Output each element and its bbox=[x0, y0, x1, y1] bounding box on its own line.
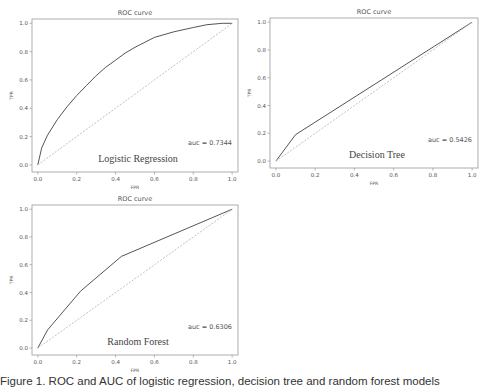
y-tick-label: 0.0 bbox=[257, 158, 266, 164]
y-tick-label: 0.4 bbox=[257, 103, 266, 109]
x-tick-label: 0.2 bbox=[72, 359, 81, 365]
x-tick-label: 0.8 bbox=[189, 359, 198, 365]
y-tick-label: 0.2 bbox=[19, 317, 28, 323]
model-label: Random Forest bbox=[107, 336, 169, 347]
plot-frame bbox=[270, 18, 478, 168]
y-axis-label: TPR bbox=[9, 276, 14, 286]
x-tick-label: 0.4 bbox=[350, 172, 359, 178]
x-axis-label: FPR bbox=[131, 368, 139, 373]
y-tick-label: 0.6 bbox=[257, 75, 266, 81]
x-tick-label: 1.0 bbox=[228, 359, 237, 365]
y-tick-label: 0.8 bbox=[257, 47, 266, 53]
model-label: Decision Tree bbox=[349, 149, 405, 160]
x-tick-label: 0.2 bbox=[311, 172, 320, 178]
chart-panel-random-forest: ROC curve0.00.20.40.60.81.00.00.20.40.60… bbox=[0, 0, 250, 387]
y-tick-label: 1.0 bbox=[19, 206, 28, 212]
chart-title: ROC curve bbox=[118, 195, 152, 203]
x-tick-label: 0.6 bbox=[150, 359, 159, 365]
y-tick-label: 0.2 bbox=[257, 130, 266, 136]
figure-caption: Figure 1. ROC and AUC of logistic regres… bbox=[0, 375, 493, 387]
x-tick-label: 0.0 bbox=[272, 172, 281, 178]
y-tick-label: 0.4 bbox=[19, 290, 28, 296]
auc-annotation: auc = 0.5426 bbox=[428, 136, 472, 144]
y-tick-label: 1.0 bbox=[257, 19, 266, 25]
x-axis-label: FPR bbox=[370, 181, 378, 186]
roc-chart-random-forest: ROC curve0.00.20.40.60.81.00.00.20.40.60… bbox=[0, 0, 250, 387]
chart-title: ROC curve bbox=[357, 8, 391, 16]
x-tick-label: 1.0 bbox=[468, 172, 477, 178]
y-tick-label: 0.8 bbox=[19, 234, 28, 240]
x-tick-label: 0.6 bbox=[389, 172, 398, 178]
auc-annotation: auc = 0.6306 bbox=[188, 323, 232, 331]
x-tick-label: 0.8 bbox=[428, 172, 437, 178]
x-tick-label: 0.0 bbox=[33, 359, 42, 365]
y-tick-label: 0.6 bbox=[19, 262, 28, 268]
x-tick-label: 0.4 bbox=[111, 359, 120, 365]
y-tick-label: 0.0 bbox=[19, 345, 28, 351]
